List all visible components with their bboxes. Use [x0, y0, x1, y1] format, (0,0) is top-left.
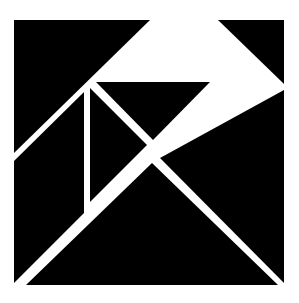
tangram-figure [0, 0, 299, 303]
tangram-svg [0, 0, 299, 303]
